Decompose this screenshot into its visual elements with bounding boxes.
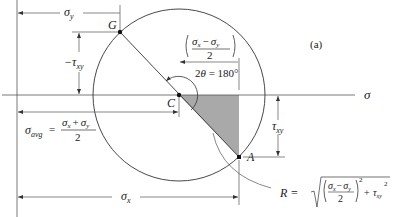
svg-text:σx−σy: σx−σy	[192, 35, 220, 49]
svg-text:σx+σy: σx+σy	[62, 116, 90, 130]
angle-label: 2θ = 180°	[195, 67, 239, 79]
svg-text:2: 2	[338, 193, 343, 204]
point-c-dot	[177, 93, 181, 97]
point-a-dot	[237, 155, 241, 159]
figure-label: (a)	[310, 38, 323, 51]
svg-text:2: 2	[75, 131, 81, 143]
half-diff-label: σx−σy 2	[186, 35, 235, 61]
point-g-label: G	[108, 18, 117, 32]
svg-text:2: 2	[384, 180, 388, 188]
svg-text:=: =	[49, 123, 55, 135]
point-g-dot	[118, 30, 122, 34]
neg-tau-xy-label: −τxy	[64, 55, 84, 71]
mohrs-circle-diagram: σ G C A σy −τxy σx−σy 2 2θ = 180° (a) σa…	[0, 0, 394, 217]
sigma-axis-label: σ	[364, 87, 371, 102]
point-c-label: C	[167, 96, 176, 110]
svg-text:2: 2	[359, 176, 363, 184]
svg-text:+: +	[364, 187, 370, 198]
radius-formula: R = σx−σy 2 2 + τxy 2	[279, 176, 390, 207]
radius-leader	[213, 133, 271, 188]
svg-text:R =: R =	[279, 186, 298, 200]
svg-text:τxy: τxy	[373, 187, 382, 199]
svg-text:σx−σy: σx−σy	[328, 180, 351, 192]
svg-text:σavg: σavg	[25, 123, 42, 139]
sigma-y-label: σy	[64, 5, 74, 21]
tau-xy-label: τxy	[272, 119, 284, 135]
svg-text:2: 2	[207, 49, 213, 61]
sigma-x-label: σx	[121, 189, 131, 205]
sigma-avg-label: σavg = σx+σy 2	[25, 116, 96, 143]
